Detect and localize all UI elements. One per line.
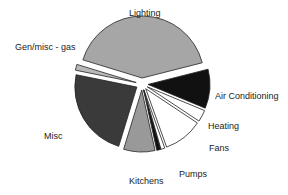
label-gen-misc-gas: Gen/misc - gas <box>15 42 76 52</box>
label-pumps: Pumps <box>179 169 207 179</box>
label-heating: Heating <box>208 121 239 131</box>
label-fans: Fans <box>209 143 229 153</box>
label-misc: Misc <box>44 131 63 141</box>
pie-slice-lighting <box>83 16 202 78</box>
label-lighting: Lighting <box>129 8 161 18</box>
label-air-conditioning: Air Conditioning <box>215 91 279 101</box>
label-kitchens: Kitchens <box>129 176 164 186</box>
